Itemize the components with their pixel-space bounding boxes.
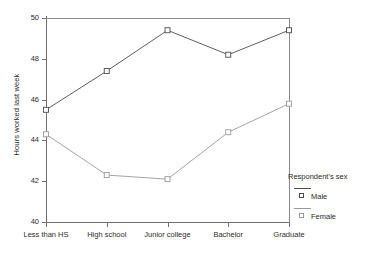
y-axis-tick-label: 44 — [0, 136, 39, 144]
legend-label: Female — [311, 212, 336, 221]
x-axis-tick-label: Graduate — [244, 231, 334, 239]
legend-marker-swatch — [299, 193, 304, 198]
legend-title: Respondent's sex — [288, 172, 370, 181]
legend-entry-female[interactable]: Female — [288, 206, 370, 226]
line-chart: Hours worked last week 404244464850 Less… — [0, 0, 370, 259]
y-axis-tick — [42, 181, 46, 182]
y-axis-tick — [42, 100, 46, 101]
legend-entry-male[interactable]: Male — [288, 186, 370, 206]
x-axis-tick — [168, 223, 169, 227]
y-axis-tick-label: 50 — [0, 14, 39, 22]
x-axis-tick — [228, 223, 229, 227]
y-axis-tick-label: 42 — [0, 177, 39, 185]
legend-line-swatch — [294, 188, 311, 189]
legend-marker-swatch — [299, 213, 304, 218]
y-axis-tick-label: 40 — [0, 218, 39, 226]
legend: Respondent's sex MaleFemale — [288, 172, 370, 226]
legend-label: Male — [311, 192, 327, 201]
y-axis-tick — [42, 59, 46, 60]
plot-area — [46, 18, 289, 222]
legend-line-swatch — [294, 208, 311, 209]
y-axis-tick — [42, 18, 46, 19]
legend-entries: MaleFemale — [288, 186, 370, 226]
y-axis-tick — [42, 140, 46, 141]
y-axis-tick-label: 46 — [0, 96, 39, 104]
y-axis-tick-label: 48 — [0, 55, 39, 63]
x-axis-tick — [107, 223, 108, 227]
x-axis-tick — [46, 223, 47, 227]
y-axis-title: Hours worked last week — [12, 55, 21, 175]
